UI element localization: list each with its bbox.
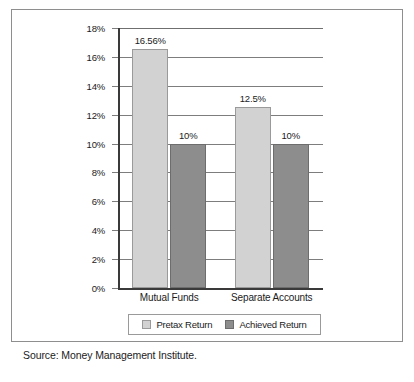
y-axis-tick-label: 14% [12,80,105,91]
y-axis-tick-label: 6% [12,196,105,207]
bar-value-label: 10% [162,130,214,141]
chart-bars: 16.56%10%12.5%10% [118,28,323,288]
source-note: Source: Money Management Institute. [23,349,197,361]
y-axis-labels: 18%16%14%12%10%8%6%4%2%0% [12,10,105,343]
y-axis-tick-label: 18% [12,23,105,34]
y-axis-tick-label: 4% [12,225,105,236]
x-axis-category-label: Separate Accounts [209,292,336,303]
y-axis-tick-label: 8% [12,167,105,178]
figure-frame: 18%16%14%12%10%8%6%4%2%0% 16.56%10%12.5%… [11,9,403,342]
bar-value-label: 16.56% [124,35,176,46]
y-axis-tick-label: 12% [12,109,105,120]
y-axis-tickmark [112,288,118,289]
x-axis-category-labels: Mutual FundsSeparate Accounts [118,292,323,310]
legend-swatch-achieved-icon [225,320,234,329]
y-axis-tick-label: 10% [12,138,105,149]
bar-achieved-1 [273,144,309,288]
legend-item-pretax-return[interactable]: Pretax Return [142,319,212,330]
y-axis-tick-label: 16% [12,51,105,62]
legend-label-achieved-return: Achieved Return [239,319,306,330]
legend-label-pretax-return: Pretax Return [156,319,212,330]
gridline [118,288,323,290]
bar-pretax-0 [132,49,168,288]
y-axis-tick-label: 0% [12,283,105,294]
y-axis-tick-label: 2% [12,254,105,265]
chart-legend: Pretax Return Achieved Return [128,314,321,335]
bar-value-label: 12.5% [227,93,279,104]
legend-item-achieved-return[interactable]: Achieved Return [225,319,306,330]
bar-achieved-0 [170,144,206,288]
chart-plot-area: 18%16%14%12%10%8%6%4%2%0% 16.56%10%12.5%… [12,10,404,343]
legend-swatch-pretax-icon [142,320,151,329]
bar-value-label: 10% [265,130,317,141]
